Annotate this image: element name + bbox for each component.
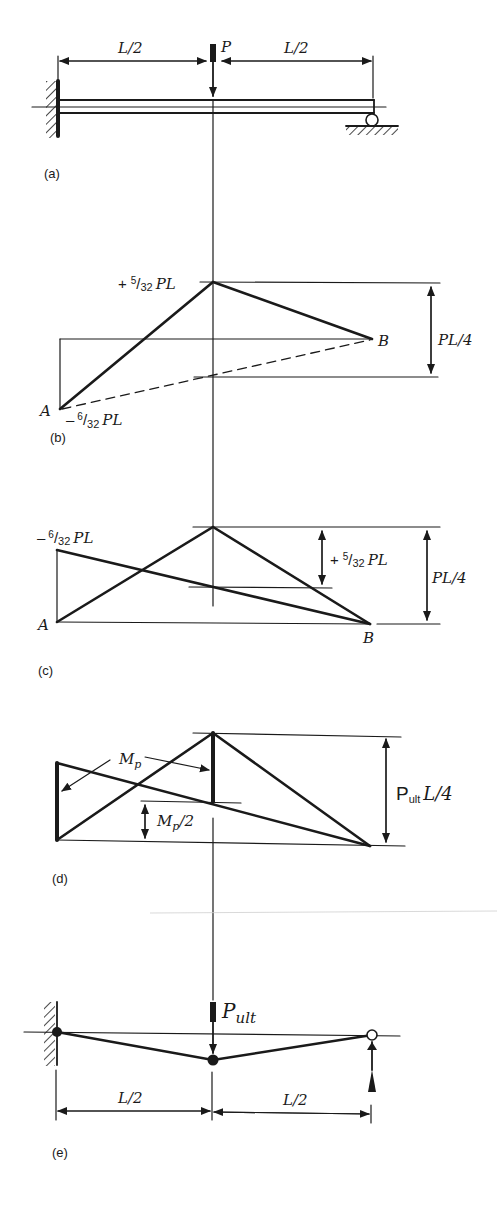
span-right-label-e: L/2 xyxy=(282,1091,308,1109)
panel-e-collapse-mechanism: Pult L/2 L/2 (e) xyxy=(24,999,400,1160)
panel-a-beam: P L/2 L/2 (a) xyxy=(32,38,398,181)
panel-c-moment-diagram: PL/4 +5/32PL –6/32PL A B (c) xyxy=(36,527,467,678)
caption-d: (d) xyxy=(52,871,68,886)
mid-moment-label: +5/32PL xyxy=(330,551,388,569)
point-a-label: A xyxy=(38,402,51,420)
span-dimension-e xyxy=(56,1070,371,1123)
range-label-b: PL/4 xyxy=(437,331,473,349)
reaction-arrow-icon xyxy=(367,1042,377,1092)
panel-b-moment-diagram: PL/4 B A +5/32PL –6/32PL (b) xyxy=(38,275,473,445)
span-right-label: L/2 xyxy=(283,39,309,57)
beam xyxy=(32,100,386,113)
mp-label: Mp xyxy=(118,750,141,771)
ultimate-load-arrow-icon xyxy=(210,1002,216,1053)
point-b-label: B xyxy=(377,332,389,350)
point-b-label-c: B xyxy=(362,629,374,647)
bottom-moment-label: –6/32PL xyxy=(66,411,122,430)
point-a-label-c: A xyxy=(36,616,49,634)
caption-e: (e) xyxy=(52,1145,68,1160)
top-moment-label: +5/32PL xyxy=(118,275,176,293)
roller-support-icon xyxy=(346,114,398,135)
point-load-arrow-icon xyxy=(210,44,216,96)
roller-hinge-icon xyxy=(367,1030,377,1040)
ultimate-range-label: PultL/4 xyxy=(396,783,453,805)
ultimate-load-label: Pult xyxy=(221,999,257,1027)
caption-c: (c) xyxy=(38,663,53,678)
panel-d-collapse-moment-diagram: Mp Mp/2 PultL/4 (d) xyxy=(52,733,453,886)
left-moment-label: –6/32PL xyxy=(37,529,93,547)
caption-b: (b) xyxy=(50,430,66,445)
range-label-c: PL/4 xyxy=(431,569,467,587)
span-left-label: L/2 xyxy=(117,39,143,57)
load-label-p: P xyxy=(220,38,232,56)
fixed-support-icon xyxy=(46,81,58,138)
mp-half-label: Mp/2 xyxy=(156,812,194,833)
span-dimension xyxy=(58,56,373,98)
span-left-label-e: L/2 xyxy=(117,1089,143,1107)
plastic-hinge-center-icon xyxy=(208,1055,219,1066)
scan-artifact-line xyxy=(150,911,497,913)
plastic-hinge-left-icon xyxy=(52,1027,62,1037)
caption-a: (a) xyxy=(44,166,60,181)
plastic-collapse-diagram: P L/2 L/2 (a) PL/4 B A +5/32PL –6/32PL (… xyxy=(0,0,497,1213)
